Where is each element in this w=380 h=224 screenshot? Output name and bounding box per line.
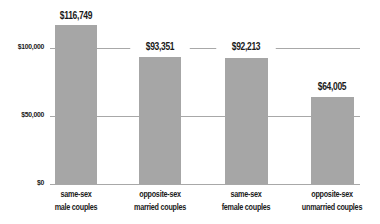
value-label-opposite-sex-unmarried: $64,005 bbox=[302, 81, 362, 92]
value-label-same-sex-female: $92,213 bbox=[216, 41, 276, 52]
ytick-label-0: $0 bbox=[7, 178, 44, 187]
category-label-same-sex-male: same-sex male couples bbox=[38, 188, 115, 214]
bar-same-sex-female bbox=[225, 58, 268, 184]
value-label-opposite-sex-married: $93,351 bbox=[130, 41, 190, 52]
category-label-opposite-sex-married: opposite-sex married couples bbox=[122, 188, 199, 214]
value-label-same-sex-male: $116,749 bbox=[46, 10, 106, 21]
baseline-0 bbox=[50, 184, 360, 185]
bar-chart: $100,000 $50,000 $0 $116,749 $93,351 $92… bbox=[0, 0, 380, 224]
ytick-label-50000: $50,000 bbox=[7, 110, 44, 119]
bar-opposite-sex-married bbox=[139, 57, 181, 184]
bar-opposite-sex-unmarried bbox=[311, 97, 354, 184]
ytick-label-100000: $100,000 bbox=[7, 42, 44, 51]
category-label-opposite-sex-unmarried: opposite-sex unmarried couples bbox=[294, 188, 371, 214]
category-label-same-sex-female: same-sex female couples bbox=[208, 188, 285, 214]
bar-same-sex-male bbox=[55, 25, 97, 184]
